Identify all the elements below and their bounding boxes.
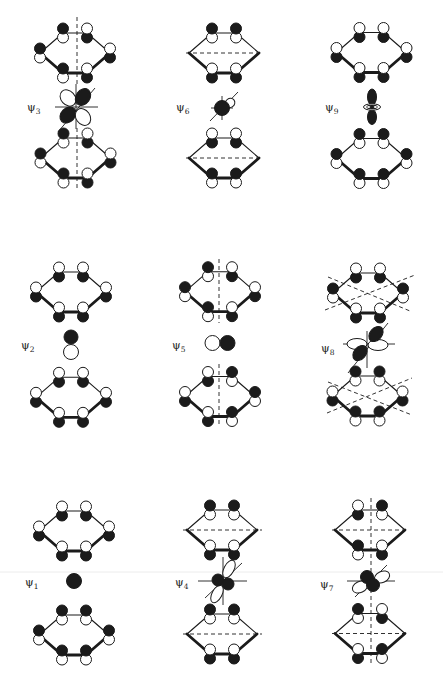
upper-lobe: [398, 283, 409, 294]
upper-lobe: [231, 63, 242, 74]
ligand-ring-bottom: [35, 128, 116, 188]
p-orbital-atom-BR: [231, 168, 242, 188]
upper-lobe: [57, 605, 68, 616]
upper-lobe: [58, 23, 69, 34]
mo-label: ψ9: [325, 101, 339, 116]
p-orbital-atom-BR: [81, 541, 92, 561]
upper-lobe: [101, 387, 112, 398]
upper-lobe: [378, 129, 389, 140]
upper-lobe: [78, 262, 89, 273]
upper-lobe: [401, 149, 412, 160]
upper-lobe: [354, 129, 365, 140]
psi-symbol: ψ: [321, 342, 330, 355]
mo-panel-psi7: ψ7: [320, 498, 409, 665]
p-orbital-atom-TL: [207, 23, 218, 43]
upper-lobe: [57, 501, 68, 512]
orbital-lobe: [370, 105, 374, 108]
upper-lobe: [378, 169, 389, 180]
p-orbital-atom-L: [180, 387, 191, 407]
p-orbital-atom-R: [101, 282, 112, 302]
upper-lobe: [377, 604, 388, 615]
p-orbital-atom-L: [331, 43, 342, 63]
mo-panel-psi2: ψ2: [21, 262, 112, 427]
p-orbital-atom-BR: [78, 407, 89, 427]
upper-lobe: [101, 282, 112, 293]
p-orbital-atom-TR: [231, 128, 242, 148]
upper-lobe: [353, 604, 364, 615]
p-orbital-atom-BR: [227, 407, 238, 427]
p-orbital-atom-TR: [227, 262, 238, 282]
p-orbital-atom-BR: [378, 63, 389, 83]
upper-lobe: [54, 407, 65, 418]
p-orbital-atom-BL: [207, 63, 218, 83]
orbital-lobe: [368, 89, 377, 105]
mo-label: ψ5: [172, 339, 186, 354]
psi-symbol: ψ: [176, 101, 185, 114]
ligand-ring-top: [331, 23, 412, 83]
metal-orbital-psi2: [64, 330, 79, 360]
upper-lobe: [207, 168, 218, 179]
upper-lobe: [207, 23, 218, 34]
upper-lobe: [207, 63, 218, 74]
upper-lobe: [203, 407, 214, 418]
upper-lobe: [34, 521, 45, 532]
upper-lobe: [31, 282, 42, 293]
p-orbital-atom-BR: [231, 63, 242, 83]
p-orbital-atom-BL: [354, 169, 365, 189]
upper-lobe: [81, 501, 92, 512]
p-orbital-atom-TL: [54, 367, 65, 387]
metal-orbital-psi9: [364, 89, 381, 125]
p-orbital-atom-L: [35, 43, 46, 63]
upper-lobe: [78, 407, 89, 418]
p-orbital-atom-R: [397, 386, 408, 406]
p-orbital-atom-TR: [78, 367, 89, 387]
mo-panel-psi9: ψ9: [325, 23, 412, 189]
p-orbital-atom-R: [401, 149, 412, 169]
upper-lobe: [57, 645, 68, 656]
upper-lobe: [207, 128, 218, 139]
upper-lobe: [350, 406, 361, 417]
upper-lobe: [229, 604, 240, 615]
p-orbital-atom-L: [328, 283, 339, 303]
mo-panel-psi4: ψ4: [175, 500, 262, 664]
p-orbital-atom-L: [331, 149, 342, 169]
ligand-ring-bottom: [31, 367, 112, 427]
p-orbital-atom-BL: [203, 302, 214, 322]
p-orbital-atom-TL: [58, 23, 69, 43]
upper-lobe: [205, 500, 216, 511]
upper-lobe: [375, 263, 386, 274]
ligand-ring-top: [34, 501, 115, 561]
p-orbital-atom-TR: [82, 23, 93, 43]
upper-lobe: [227, 302, 238, 313]
upper-lobe: [401, 43, 412, 54]
p-orbital-atom-TR: [82, 128, 93, 148]
mo-panel-psi3: ψ3: [27, 17, 116, 190]
orbital-lobe: [222, 578, 234, 590]
mo-label: ψ3: [27, 101, 41, 116]
orbital-index-subscript: 1: [34, 582, 39, 591]
p-orbital-atom-L: [34, 625, 45, 645]
molecular-orbital-figure: ψ3ψ6ψ9ψ2ψ5ψ8ψ1ψ4ψ7: [0, 0, 443, 679]
upper-lobe: [328, 283, 339, 294]
upper-lobe: [229, 540, 240, 551]
upper-lobe: [378, 63, 389, 74]
p-orbital-atom-TR: [229, 604, 240, 624]
orbital-lobe: [205, 336, 220, 351]
upper-lobe: [82, 23, 93, 34]
psi-symbol: ψ: [320, 578, 329, 591]
psi-symbol: ψ: [175, 576, 184, 589]
upper-lobe: [327, 386, 338, 397]
upper-lobe: [203, 367, 214, 378]
upper-lobe: [377, 500, 388, 511]
p-orbital-atom-BR: [377, 540, 388, 560]
upper-lobe: [353, 540, 364, 551]
upper-lobe: [378, 23, 389, 34]
p-orbital-atom-BL: [351, 303, 362, 323]
orbital-index-subscript: 8: [330, 348, 335, 357]
orbital-lobe: [72, 106, 94, 129]
p-orbital-atom-R: [101, 387, 112, 407]
p-orbital-atom-TL: [354, 129, 365, 149]
p-orbital-atom-L: [31, 282, 42, 302]
psi-symbol: ψ: [21, 339, 30, 352]
upper-lobe: [205, 604, 216, 615]
